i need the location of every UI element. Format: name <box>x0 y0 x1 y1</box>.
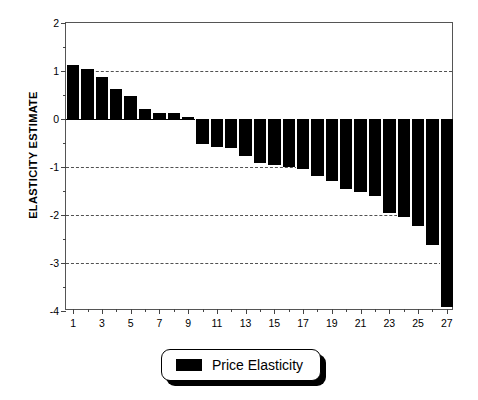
y-tick <box>61 119 66 120</box>
bar <box>224 119 238 148</box>
bar <box>267 119 281 165</box>
bar <box>152 113 166 119</box>
x-tick <box>159 309 160 314</box>
x-tick <box>188 309 189 314</box>
x-tick-label: 23 <box>383 317 395 329</box>
bar <box>397 119 411 217</box>
x-tick-label: 19 <box>326 317 338 329</box>
y-tick-label: 0 <box>53 113 59 125</box>
bar <box>339 119 353 189</box>
x-tick <box>418 309 419 314</box>
x-tick-label: 21 <box>355 317 367 329</box>
bar <box>353 119 367 192</box>
y-tick-minor <box>63 47 66 48</box>
bar <box>138 109 152 119</box>
y-tick <box>61 263 66 264</box>
x-tick-label: 27 <box>441 317 453 329</box>
y-tick-label: -4 <box>50 305 59 317</box>
x-tick-minor <box>375 309 376 312</box>
bar <box>382 119 396 213</box>
bar <box>368 119 382 196</box>
y-tick-label: -2 <box>50 209 59 221</box>
x-tick <box>217 309 218 314</box>
bar <box>425 119 439 245</box>
x-tick <box>332 309 333 314</box>
x-tick-minor <box>346 309 347 312</box>
legend-swatch-price-elasticity <box>176 359 202 371</box>
x-tick <box>274 309 275 314</box>
y-tick <box>61 311 66 312</box>
chart-figure: ELASTICITY ESTIMATE 210-1-2-3-4 13579111… <box>0 0 478 400</box>
y-tick <box>61 215 66 216</box>
y-tick-minor <box>63 191 66 192</box>
y-tick <box>61 71 66 72</box>
bar <box>80 69 94 119</box>
x-tick-minor <box>116 309 117 312</box>
x-tick-label: 9 <box>185 317 191 329</box>
bar <box>440 119 454 307</box>
y-tick-label: -3 <box>50 257 59 269</box>
y-tick-minor <box>63 95 66 96</box>
bar <box>109 89 123 119</box>
x-tick-label: 7 <box>156 317 162 329</box>
bar <box>195 119 209 144</box>
x-tick <box>361 309 362 314</box>
plot-area: 210-1-2-3-4 13579111315171921232527 <box>65 22 453 310</box>
bar <box>296 119 310 169</box>
x-tick-label: 1 <box>70 317 76 329</box>
legend-box: Price Elasticity <box>161 349 321 381</box>
x-tick <box>447 309 448 314</box>
x-tick-label: 15 <box>269 317 281 329</box>
x-tick-minor <box>317 309 318 312</box>
bar <box>95 77 109 119</box>
legend-label-price-elasticity: Price Elasticity <box>212 357 303 373</box>
bar <box>253 119 267 163</box>
x-tick <box>303 309 304 314</box>
x-tick-minor <box>88 309 89 312</box>
bar <box>123 96 137 119</box>
y-tick-label: 1 <box>53 65 59 77</box>
x-tick-minor <box>145 309 146 312</box>
x-tick-minor <box>260 309 261 312</box>
legend: Price Elasticity <box>161 349 321 381</box>
x-tick-minor <box>432 309 433 312</box>
y-tick-label: -1 <box>50 161 59 173</box>
x-tick-label: 5 <box>128 317 134 329</box>
x-tick-label: 11 <box>211 317 222 329</box>
x-tick <box>389 309 390 314</box>
x-tick-label: 13 <box>240 317 252 329</box>
x-tick-minor <box>174 309 175 312</box>
x-tick-minor <box>289 309 290 312</box>
bar <box>210 119 224 147</box>
bar <box>181 117 195 119</box>
y-tick-minor <box>63 143 66 144</box>
x-tick-minor <box>231 309 232 312</box>
y-tick-label: 2 <box>53 17 59 29</box>
y-tick <box>61 23 66 24</box>
x-tick <box>246 309 247 314</box>
bar-series <box>66 23 452 309</box>
x-tick-label: 25 <box>412 317 424 329</box>
bar <box>411 119 425 226</box>
x-tick <box>102 309 103 314</box>
bar <box>167 113 181 119</box>
x-tick-label: 3 <box>99 317 105 329</box>
x-tick <box>73 309 74 314</box>
y-axis-title: ELASTICITY ESTIMATE <box>22 0 44 310</box>
y-tick-minor <box>63 287 66 288</box>
x-tick-minor <box>203 309 204 312</box>
bar <box>238 119 252 156</box>
x-tick <box>131 309 132 314</box>
y-tick <box>61 167 66 168</box>
bar <box>325 119 339 181</box>
y-tick-minor <box>63 239 66 240</box>
bar <box>282 119 296 167</box>
bar <box>66 65 80 119</box>
bar <box>310 119 324 176</box>
x-tick-minor <box>404 309 405 312</box>
x-tick-label: 17 <box>297 317 309 329</box>
